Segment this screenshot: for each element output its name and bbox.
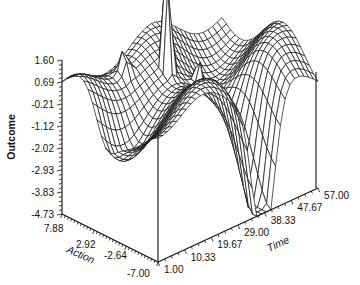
z-tick-label: -1.12: [31, 121, 54, 132]
z-axis-ticks: [57, 60, 62, 215]
y-tick-label: 29.00: [244, 227, 269, 238]
z-tick-label: 1.60: [35, 55, 55, 66]
z-axis-title: Outcome: [5, 114, 17, 160]
z-tick-label: -0.21: [31, 99, 54, 110]
z-tick-label: -2.93: [31, 165, 54, 176]
x-tick-label: -7.00: [127, 268, 150, 279]
y-tick-label: 47.67: [297, 202, 322, 213]
y-tick-label: 1.00: [164, 264, 184, 275]
z-tick-label: 0.69: [35, 77, 55, 88]
x-tick-label: -2.64: [104, 250, 127, 261]
z-tick-label: -2.02: [31, 143, 54, 154]
y-tick-label: 10.33: [191, 252, 216, 263]
x-tick-label: 7.88: [44, 223, 64, 234]
surface-plot: 1.600.69-0.21-1.12-2.02-2.93-3.83-4.73 O…: [0, 0, 360, 285]
z-axis-tick-labels: 1.600.69-0.21-1.12-2.02-2.93-3.83-4.73: [31, 55, 54, 220]
y-axis-ticks: [158, 188, 320, 266]
y-tick-label: 38.33: [271, 215, 296, 226]
z-tick-label: -4.73: [31, 209, 54, 220]
y-tick-label: 57.00: [324, 190, 349, 201]
y-tick-label: 19.67: [217, 239, 242, 250]
surface-mesh: [62, 0, 318, 216]
z-tick-label: -3.83: [31, 187, 54, 198]
